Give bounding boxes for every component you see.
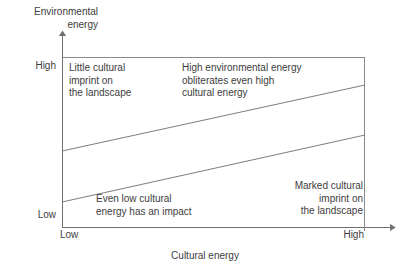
- x-axis-title: Cultural energy: [150, 250, 260, 263]
- y-axis-tick-low: Low: [20, 209, 56, 222]
- y-axis-title: Environmental energy: [2, 6, 98, 31]
- y-axis-tick-high: High: [20, 60, 56, 73]
- annotation-top-right: High environmental energy obliterates ev…: [182, 62, 367, 100]
- annotation-bottom-right: Marked cultural imprint on the landscape: [255, 180, 363, 218]
- x-axis-tick-high: High: [300, 229, 364, 242]
- diagram-canvas: Environmental energy Cultural energy Hig…: [0, 0, 400, 271]
- annotation-top-left: Little cultural imprint on the landscape: [69, 62, 179, 100]
- annotation-bottom-left: Even low cultural energy has an impact: [96, 193, 246, 218]
- x-axis-tick-low: Low: [60, 229, 78, 242]
